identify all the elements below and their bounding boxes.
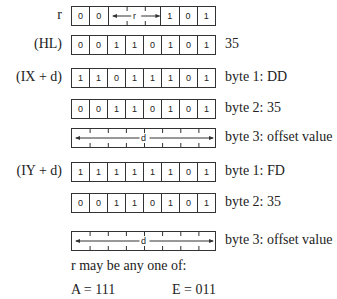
span-label: d [140,133,147,143]
bit-cell: 1 [161,7,179,25]
row-label: (IX + d) [0,69,62,85]
bit-cell: 0 [180,194,198,212]
bit-cell: 1 [108,100,126,118]
bit-cell: 1 [198,7,215,25]
bit-cell: 0 [180,69,198,87]
bit-cell: 1 [126,100,144,118]
bit-cell: 0 [108,69,126,87]
bit-cell: 1 [198,100,215,118]
bit-cell: 1 [198,163,215,181]
byte-register: d [71,231,216,251]
bit-cell: 0 [90,36,108,54]
register-code-e: E = 011 [172,282,216,298]
bit-cell: 1 [162,100,180,118]
bit-cell: 1 [126,36,144,54]
bit-cell: 1 [126,163,144,181]
bit-cell: 1 [90,163,108,181]
bit-cell: 1 [144,69,162,87]
byte-register: 00110101 [71,99,216,119]
span-label: r [132,11,137,21]
byte-description: byte 3: offset value [225,232,332,248]
bit-cell: 1 [162,163,180,181]
byte-description: 35 [225,36,239,52]
bit-cell: 0 [90,7,108,25]
bit-cell: 0 [72,7,90,25]
bit-cell: 0 [180,163,198,181]
bit-cell: 0 [144,36,162,54]
row-label: (IY + d) [0,163,62,179]
bit-cell: 0 [72,194,90,212]
bit-cell: 1 [162,69,180,87]
byte-register: 00 r101 [71,6,216,26]
byte-register: 11011101 [71,68,216,88]
byte-description: byte 2: 35 [225,194,281,210]
byte-description: byte 1: DD [225,69,287,85]
bit-cell: 0 [180,7,198,25]
byte-register: 00110101 [71,35,216,55]
byte-description: byte 1: FD [225,163,285,179]
byte-description: byte 3: offset value [225,129,332,145]
field-span: r [109,7,162,25]
bit-cell: 0 [180,36,198,54]
bit-cell: 1 [126,194,144,212]
bit-cell: 1 [144,163,162,181]
register-note: r may be any one of: [71,258,186,274]
bit-cell: 1 [162,36,180,54]
bit-cell: 0 [72,36,90,54]
bit-cell: 1 [162,194,180,212]
row-label: (HL) [0,36,62,52]
bit-cell: 1 [108,36,126,54]
field-span: d [72,129,215,147]
byte-register: d [71,128,216,148]
bit-cell: 0 [72,100,90,118]
bit-cell: 0 [180,100,198,118]
bit-cell: 0 [90,194,108,212]
bit-cell: 1 [72,163,90,181]
byte-description: byte 2: 35 [225,100,281,116]
bit-cell: 1 [72,69,90,87]
span-label: d [140,236,147,246]
bit-cell: 1 [108,163,126,181]
byte-register: 00110101 [71,193,216,213]
bit-cell: 1 [90,69,108,87]
bit-cell: 1 [198,69,215,87]
row-label: r [0,7,62,23]
bit-cell: 1 [108,194,126,212]
register-code-a: A = 111 [71,282,115,298]
bit-cell: 0 [144,100,162,118]
bit-cell: 1 [198,36,215,54]
bit-cell: 0 [90,100,108,118]
byte-register: 11111101 [71,162,216,182]
field-span: d [72,232,215,250]
bit-cell: 1 [198,194,215,212]
bit-cell: 1 [126,69,144,87]
bit-cell: 0 [144,194,162,212]
